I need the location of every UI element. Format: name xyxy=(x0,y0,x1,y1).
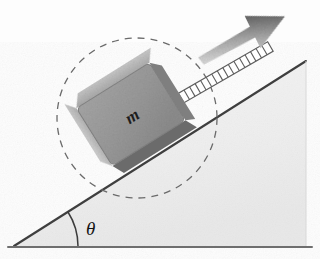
diagram-canvas: θ xyxy=(0,0,320,259)
angle-label: θ xyxy=(86,218,95,239)
physics-diagram-block-on-incline: θ xyxy=(0,0,320,259)
